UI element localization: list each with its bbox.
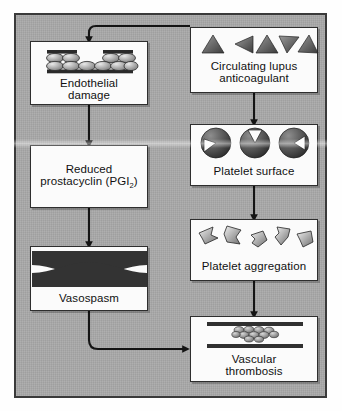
node-vasospasm[interactable]: Vasospasm — [30, 246, 148, 311]
node-circulating-lupus-anticoagulant[interactable]: Circulating lupus anticoagulant — [190, 27, 318, 93]
endothelial-damage-label: Endothelial damage — [31, 77, 147, 102]
endothelial-cell-layer-icon — [31, 45, 149, 75]
circulating-lupus-anticoagulant-label: Circulating lupus anticoagulant — [191, 60, 317, 85]
constricted-vessel-icon — [32, 249, 147, 289]
node-platelet-surface[interactable]: Platelet surface — [190, 124, 318, 186]
edge-lupus-to-endothelial-damage — [89, 26, 190, 40]
node-reduced-prostacyclin[interactable]: Reduced prostacyclin (PGI2) — [30, 145, 148, 208]
node-platelet-aggregation[interactable]: Platelet aggregation — [190, 219, 318, 281]
reduced-prostacyclin-label: Reduced prostacyclin (PGI2) — [31, 163, 147, 191]
node-vascular-thrombosis[interactable]: Vascular thrombosis — [190, 316, 318, 382]
platelet-surface-label: Platelet surface — [191, 165, 317, 177]
activated-platelets-icon — [191, 223, 319, 253]
diagram-root: Endothelial damage Reduced prostacyclin … — [0, 0, 342, 411]
vascular-thrombosis-label: Vascular thrombosis — [191, 353, 317, 378]
platelet-receptor-spheres-icon — [191, 127, 319, 159]
platelet-aggregation-label: Platelet aggregation — [191, 260, 317, 272]
vessel-with-thrombus-icon — [191, 320, 319, 350]
node-endothelial-damage[interactable]: Endothelial damage — [30, 41, 148, 105]
edge-vasospasm-to-thrombosis — [89, 311, 186, 349]
antibody-triangles-icon — [191, 31, 319, 59]
vasospasm-label: Vasospasm — [31, 292, 147, 304]
